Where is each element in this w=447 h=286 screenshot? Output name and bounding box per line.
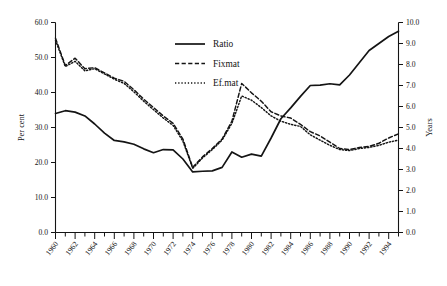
chart-canvas: 0.010.020.030.040.050.060.0 0.01.02.03.0… <box>0 0 447 286</box>
left-axis-tick-label: 30.0 <box>35 123 48 132</box>
left-axis-tick-label: 0.0 <box>39 228 49 237</box>
legend-label-fixmat: Fixmat <box>213 59 240 69</box>
right-axis-tick-label: 9.0 <box>406 39 416 48</box>
right-axis-tick-label: 1.0 <box>406 207 416 216</box>
legend-label-ratio: Ratio <box>213 39 234 49</box>
right-axis-tick-label: 3.0 <box>406 165 416 174</box>
chart-figure: 0.010.020.030.040.050.060.0 0.01.02.03.0… <box>0 0 447 286</box>
left-axis-tick-label: 20.0 <box>35 158 48 167</box>
left-axis-title: Per cent <box>17 113 26 141</box>
right-axis-tick-label: 10.0 <box>406 18 419 27</box>
right-axis-tick-label: 4.0 <box>406 144 416 153</box>
legend-label-ef-mat: Ef.mat <box>213 78 239 88</box>
left-axis-tick-label: 50.0 <box>35 53 48 62</box>
left-axis-tick-label: 60.0 <box>35 18 48 27</box>
right-axis-tick-label: 7.0 <box>406 81 416 90</box>
right-axis-tick-label: 8.0 <box>406 60 416 69</box>
right-axis-tick-label: 6.0 <box>406 102 416 111</box>
right-axis-tick-label: 5.0 <box>406 123 416 132</box>
right-axis-title: Years <box>425 118 434 137</box>
left-axis-tick-label: 10.0 <box>35 193 48 202</box>
right-axis-tick-label: 2.0 <box>406 186 416 195</box>
right-axis-tick-label: 0.0 <box>406 228 416 237</box>
left-axis-tick-label: 40.0 <box>35 88 48 97</box>
